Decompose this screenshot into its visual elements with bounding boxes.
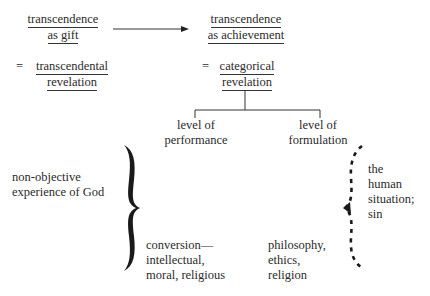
transcendence-as-achievement: transcendence as achievement: [192, 12, 300, 44]
categorical-revelation: categorical revelation: [216, 59, 278, 91]
label-line: categorical: [220, 59, 275, 75]
label-line: conversion—: [146, 238, 213, 252]
non-objective-experience: non-objective experience of God: [12, 170, 104, 200]
philosophy-list: philosophy, ethics, religion: [268, 238, 326, 283]
human-situation-sin: the human situation; sin: [368, 162, 415, 222]
label-line: revelation: [222, 75, 272, 91]
label-line: formulation: [288, 133, 347, 147]
label-line: sin: [368, 207, 383, 221]
label-line: human: [368, 177, 402, 191]
brace-point-icon: [343, 202, 351, 214]
equals-sign: =: [16, 59, 23, 74]
transcendental-revelation: transcendental revelation: [30, 59, 114, 91]
label-line: intellectual,: [146, 253, 205, 267]
label-line: transcendence: [28, 12, 99, 28]
equals-sign: =: [202, 59, 209, 74]
label-line: the: [368, 162, 383, 176]
level-of-formulation: level of formulation: [270, 118, 366, 148]
label-line: as gift: [48, 28, 79, 44]
label-line: transcendence: [211, 12, 282, 28]
label-line: situation;: [368, 192, 415, 206]
label-line: revelation: [47, 75, 97, 91]
label-line: moral, religious: [146, 268, 225, 282]
label-line: level of: [177, 118, 215, 132]
right-curly-brace-icon: [124, 145, 140, 271]
label-line: philosophy,: [268, 238, 326, 252]
label-line: transcendental: [36, 59, 108, 75]
label-line: experience of God: [12, 185, 104, 199]
label-line: ethics,: [268, 253, 300, 267]
label-line: level of: [299, 118, 337, 132]
label-line: religion: [268, 268, 307, 282]
level-of-performance: level of performance: [152, 118, 240, 148]
label-line: as achievement: [208, 28, 285, 44]
label-line: non-objective: [12, 170, 81, 184]
label-line: performance: [164, 133, 227, 147]
conversion-list: conversion— intellectual, moral, religio…: [146, 238, 225, 283]
arrow-head-icon: [181, 26, 189, 32]
transcendence-as-gift: transcendence as gift: [20, 12, 106, 44]
